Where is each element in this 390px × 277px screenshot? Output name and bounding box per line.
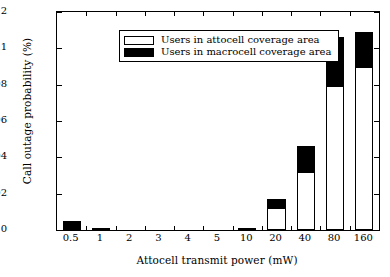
y-tick-label: 0 — [1, 224, 7, 234]
x-tick-mark — [350, 226, 351, 230]
x-tick-mark — [174, 226, 175, 230]
bar-segment-attocell — [238, 228, 256, 230]
y-tick-mark — [57, 85, 62, 86]
x-tick-mark — [86, 226, 87, 230]
y-tick-mark-right — [374, 48, 379, 49]
bar-segment-macrocell — [355, 32, 373, 67]
bar-segment-attocell — [267, 208, 285, 230]
x-tick-mark-top — [86, 12, 87, 16]
x-axis-title: Attocell transmit power (mW) — [56, 254, 378, 266]
x-tick-mark-top — [145, 12, 146, 16]
x-tick-mark — [291, 226, 292, 230]
x-tick-mark — [145, 226, 146, 230]
y-tick-label: 0.02 — [0, 188, 7, 198]
x-tick-mark — [262, 226, 263, 230]
legend-item-attocell: Users in attocell coverage area — [124, 34, 331, 46]
legend-label-macrocell: Users in macrocell coverage area — [161, 47, 331, 57]
bar-group — [355, 12, 373, 230]
y-tick-mark — [57, 48, 62, 49]
y-tick-mark-right — [374, 157, 379, 158]
legend-item-macrocell: Users in macrocell coverage area — [124, 46, 331, 58]
y-tick-mark-right — [374, 121, 379, 122]
x-tick-mark — [116, 226, 117, 230]
plot-inner: Users in attocell coverage area Users in… — [57, 12, 379, 230]
legend-label-attocell: Users in attocell coverage area — [161, 35, 320, 45]
bar-segment-macrocell — [63, 221, 81, 230]
x-tick-mark — [233, 226, 234, 230]
bar-segment-attocell — [326, 86, 344, 230]
y-tick-mark — [57, 121, 62, 122]
y-tick-mark-right — [374, 12, 379, 13]
legend-swatch-attocell-icon — [124, 36, 154, 45]
bar-segment-macrocell — [267, 199, 285, 208]
x-tick-mark-top — [320, 12, 321, 16]
y-tick-mark-right — [374, 230, 379, 231]
y-tick-label: 0.04 — [0, 151, 7, 161]
x-tick-label: 160 — [343, 233, 383, 243]
y-tick-mark-right — [374, 194, 379, 195]
x-tick-mark — [203, 226, 204, 230]
x-tick-mark-top — [174, 12, 175, 16]
y-tick-label: 0.06 — [0, 115, 7, 125]
x-tick-mark-top — [350, 12, 351, 16]
bar-segment-attocell — [297, 172, 315, 230]
y-tick-mark — [57, 194, 62, 195]
x-tick-mark-top — [233, 12, 234, 16]
bar-group — [63, 12, 81, 230]
x-tick-mark-top — [116, 12, 117, 16]
y-tick-mark — [57, 230, 62, 231]
bar-group — [92, 12, 110, 230]
bar-segment-attocell — [355, 67, 373, 231]
x-tick-mark-top — [262, 12, 263, 16]
bar-segment-attocell — [92, 228, 110, 230]
chart-figure: Call outage probability (%) Attocell tra… — [0, 0, 390, 277]
legend-swatch-macrocell-icon — [124, 48, 154, 57]
y-tick-mark — [57, 157, 62, 158]
y-axis-title: Call outage probability (%) — [21, 11, 33, 211]
y-tick-label: 0.08 — [0, 79, 7, 89]
y-tick-mark-right — [374, 85, 379, 86]
x-tick-mark-top — [291, 12, 292, 16]
x-tick-mark-top — [203, 12, 204, 16]
y-tick-label: 0.12 — [0, 6, 7, 16]
y-tick-label: 0.1 — [0, 42, 7, 52]
chart-legend: Users in attocell coverage area Users in… — [119, 30, 339, 62]
plot-area: Users in attocell coverage area Users in… — [56, 11, 380, 231]
bar-segment-macrocell — [297, 146, 315, 171]
y-tick-mark — [57, 12, 62, 13]
x-tick-mark — [320, 226, 321, 230]
